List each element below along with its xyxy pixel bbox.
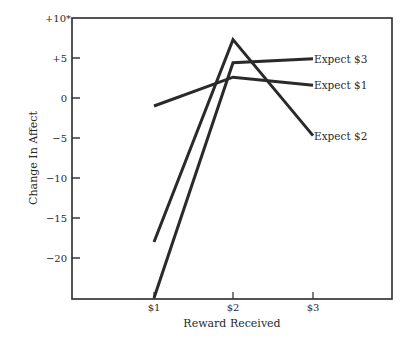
series-labels: Expect $3Expect $1Expect $2 bbox=[314, 53, 367, 142]
line-chart: +10*+50−5−10−15−20 $1$2$3 Expect $3Expec… bbox=[0, 0, 412, 343]
x-axis-title: Reward Received bbox=[183, 317, 280, 330]
y-tick-label: −10 bbox=[46, 173, 67, 184]
x-tick-label: $2 bbox=[227, 302, 240, 313]
x-tick-label: $1 bbox=[148, 302, 161, 313]
y-tick-label: −5 bbox=[52, 133, 67, 144]
y-axis-ticks: +10*+50−5−10−15−20 bbox=[45, 13, 80, 264]
y-axis-title: Change In Affect bbox=[27, 111, 40, 205]
series-label: Expect $3 bbox=[314, 53, 367, 65]
series-label: Expect $1 bbox=[314, 79, 367, 91]
y-tick-label: 0 bbox=[61, 93, 67, 104]
y-tick-label: −15 bbox=[46, 213, 67, 224]
series-line-expect-1 bbox=[154, 77, 313, 106]
x-axis-ticks: $1$2$3 bbox=[148, 292, 320, 313]
x-tick-label: $3 bbox=[307, 302, 320, 313]
y-tick-label: +10* bbox=[45, 13, 71, 24]
series-lines bbox=[154, 40, 313, 298]
y-tick-label: −20 bbox=[46, 253, 67, 264]
series-line-expect-2 bbox=[154, 40, 313, 242]
series-label: Expect $2 bbox=[314, 130, 367, 142]
y-tick-label: +5 bbox=[52, 53, 67, 64]
